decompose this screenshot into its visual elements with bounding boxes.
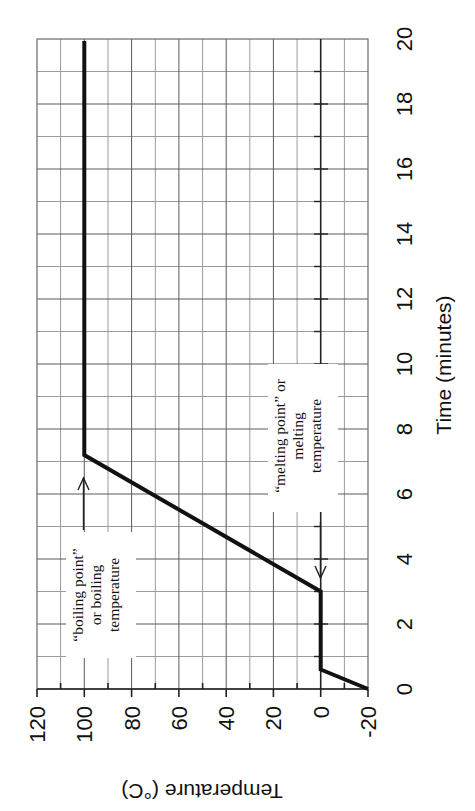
boiling-line-2: or boiling [87, 564, 104, 625]
svg-text:20: 20 [261, 706, 286, 730]
svg-text:10: 10 [392, 352, 417, 376]
melting-line-1: “melting point” or [271, 378, 288, 492]
boiling-arrow [78, 478, 89, 530]
svg-text:20: 20 [392, 27, 417, 51]
svg-text:60: 60 [167, 706, 192, 730]
svg-text:120: 120 [25, 706, 50, 743]
temperature-tick-labels: 120 100 80 60 40 20 0 -20 [25, 706, 381, 743]
svg-text:40: 40 [214, 706, 239, 730]
svg-text:12: 12 [392, 287, 417, 311]
svg-text:80: 80 [120, 706, 145, 730]
svg-text:0: 0 [309, 706, 334, 718]
svg-text:100: 100 [72, 706, 97, 743]
svg-text:-20: -20 [356, 706, 381, 738]
svg-text:18: 18 [392, 92, 417, 116]
svg-text:2: 2 [392, 618, 417, 630]
boiling-line-3: temperature [105, 558, 122, 632]
svg-text:4: 4 [392, 553, 417, 565]
melting-line-2: melting [289, 412, 306, 460]
temperature-axis-title: Temperature (°C) [121, 780, 282, 803]
svg-text:0: 0 [392, 683, 417, 695]
melting-line-3: temperature [307, 399, 324, 473]
boiling-line-1: “boiling point” [69, 548, 86, 642]
temperature-axis [37, 683, 368, 697]
svg-text:6: 6 [392, 488, 417, 500]
svg-text:14: 14 [392, 222, 417, 246]
time-axis-title: Time (minutes) [432, 295, 455, 434]
heating-curve-chart: “boiling point” or boiling temperature “… [0, 0, 475, 811]
svg-text:8: 8 [392, 423, 417, 435]
svg-text:16: 16 [392, 157, 417, 181]
melting-arrow [315, 522, 326, 578]
time-tick-labels: 0 2 4 6 8 10 12 14 16 18 20 [392, 27, 417, 695]
